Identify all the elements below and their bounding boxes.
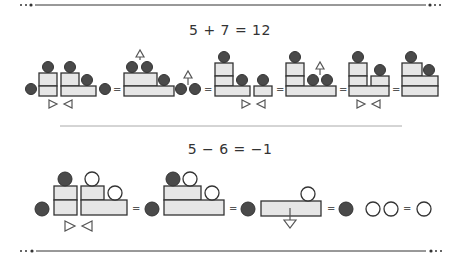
addition-step-5 <box>349 52 389 109</box>
subtraction-step-4 <box>339 202 398 216</box>
subtraction-step-2 <box>145 172 224 216</box>
addition-step-1 <box>26 62 111 109</box>
subtraction-step-3 <box>241 187 321 228</box>
equals-sign: = <box>327 203 335 214</box>
subtraction-step-1 <box>35 172 127 231</box>
equals-sign: = <box>229 203 237 214</box>
bottom-rule <box>20 249 442 252</box>
equals-sign: = <box>276 84 284 95</box>
addition-result <box>402 52 438 97</box>
addition-step-3 <box>215 52 272 109</box>
diagram-canvas: .blk{fill:#e6e6e6;stroke:#333;stroke-wid… <box>0 0 460 254</box>
equals-sign: = <box>392 84 400 95</box>
equals-sign: = <box>339 84 347 95</box>
top-rule <box>20 3 441 6</box>
addition-step-4 <box>286 52 336 97</box>
addition-step-2 <box>124 50 201 96</box>
subtraction-result <box>417 202 431 216</box>
equals-sign: = <box>204 84 212 95</box>
equals-sign: = <box>403 203 411 214</box>
equals-sign: = <box>132 203 140 214</box>
equals-sign: = <box>113 84 121 95</box>
